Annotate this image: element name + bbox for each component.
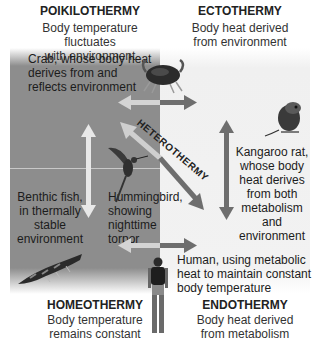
bottom-horizontal-arrow [118,238,197,253]
right-vertical-arrow [219,120,234,220]
left-vertical-arrow [81,124,96,218]
kangaroo-rat-icon [265,96,309,140]
crab-icon [138,58,188,94]
benthic-fish-icon [16,252,84,288]
human-icon [146,256,170,338]
top-horizontal-arrow [118,95,197,110]
hummingbird-icon [106,144,150,204]
